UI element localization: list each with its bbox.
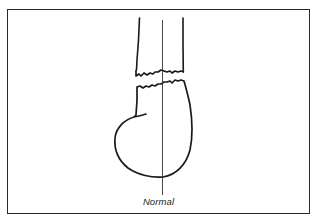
upper-shaft [137,18,184,72]
bone-fracture-diagram [0,0,317,222]
lower-fragment-outline [115,81,192,177]
upper-fracture-line [136,70,184,76]
upper-shaft-left-line [137,18,140,70]
lower-fracture-line [137,80,184,88]
figure-caption: Normal [0,196,317,207]
